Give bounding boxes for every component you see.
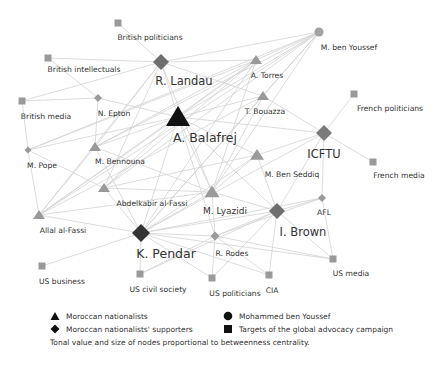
legend-note: Tonal value and size of nodes proportion… [50,336,310,348]
node-icftu-diamond-icon [316,125,332,141]
node-afl-diamond-icon [318,194,326,202]
circle-icon [223,311,233,321]
edge-r_landau-a_torres [161,60,256,62]
node-label-cia: CIA [266,286,280,295]
node-label-icftu: ICFTU [307,147,340,161]
node-cia-square-icon [266,272,273,279]
node-label-british-politicians: British politicians [117,33,182,42]
triangle-icon [50,311,60,321]
node-label-abdelkabir-al-fassi: Abdelkabir al-Fassi [117,199,188,208]
node-british-media-square-icon [19,98,26,105]
edge-k_pendar-us_business [42,233,141,266]
node-label-n-epton: N. Epton [98,109,131,118]
node-label-m-ben-youssef: M. ben Youssef [321,43,378,52]
node-m-bennouna-triangle-icon [89,142,101,151]
node-label-us-media: US media [333,269,369,278]
edge-m_ben_seddiq-k_pendar [141,155,257,233]
legend-item-mohammed-ben-youssef: Mohammed ben Youssef [223,310,330,322]
node-label-allal-al-fassi: Allal al-Fassi [40,226,86,235]
node-label-r-landau: R. Landau [155,74,212,88]
legend-item-supporters: Moroccan nationalists' supporters [50,323,193,335]
node-label-us-business: US business [39,277,85,286]
edge-british_media-n_epton [22,98,98,101]
node-us-civil-society-square-icon [137,271,144,278]
node-label-i-brown: I. Brown [280,225,327,239]
node-label-french-media: French media [373,171,424,180]
node-french-media-square-icon [370,159,377,166]
node-m-ben-seddiq-triangle-icon [250,149,264,160]
node-n-epton-diamond-icon [94,94,102,102]
node-label-us-politicians: US politicians [209,289,260,298]
edge-i_brown-cia [269,211,277,275]
node-m-ben-youssef-circle-icon [315,28,324,37]
node-m-pope-diamond-icon [25,147,32,154]
node-label-british-intellectuals: British intellectuals [48,65,121,74]
edge-i_brown-us_politicians [212,211,277,278]
legend-label: Mohammed ben Youssef [239,312,330,321]
square-icon [223,324,233,334]
node-label-french-politicians: French politicians [357,104,423,113]
node-label-afl: AFL [317,208,332,217]
edge-m_ben_youssef-t_bouazza [263,32,319,96]
edge-british_media-m_pope [22,101,28,150]
node-label-r-rodes: R. Rodes [216,249,249,258]
legend-label: Moroccan nationalists' supporters [66,325,193,334]
node-t-bouazza-triangle-icon [257,91,269,100]
node-british-politicians-square-icon [115,20,122,27]
node-label-british-media: British media [21,112,71,121]
edge-abdelkabir_al_fassi-k_pendar [104,188,141,233]
edge-icftu-afl [322,133,324,198]
node-label-k-pendar: K. Pendar [136,246,196,261]
legend-item-targets: Targets of the global advocacy campaign [223,323,393,335]
edge-british_politicians-r_landau [118,23,161,62]
edge-m_ben_seddiq-i_brown [257,155,277,211]
node-label-us-civil-society: US civil society [129,285,187,294]
edge-french_politicians-icftu [324,94,354,133]
edge-r_landau-m_ben_youssef [161,32,319,62]
diamond-icon [50,324,60,334]
node-label-a-balafrej: A. Balafrej [173,130,237,145]
node-us-politicians-square-icon [209,275,216,282]
node-label-m-pope: M. Pope [27,161,57,170]
node-british-intellectuals-square-icon [45,55,52,62]
node-label-m-bennouna: M. Bennouna [95,157,145,166]
legend-label: Targets of the global advocacy campaign [239,325,393,334]
node-r-rodes-diamond-icon [211,232,220,241]
node-label-t-bouazza: T. Bouazza [244,107,286,116]
node-us-business-square-icon [39,263,46,270]
node-k-pendar-diamond-icon [132,224,150,242]
node-label-m-lyazidi: M. Lyazidi [203,206,247,216]
edge-m_pope-allal_al_fassi [28,150,39,215]
legend-item-moroccan-nationalists: Moroccan nationalists [50,310,148,322]
network-diagram: British politiciansBritish intellectuals… [0,0,444,300]
node-label-m-ben-seddiq: M. Ben Seddiq [265,170,320,179]
edge-british_intellectuals-r_landau [48,58,161,62]
node-label-a-torres: A. Torres [251,71,283,80]
node-us-media-square-icon [330,256,337,263]
legend-label: Moroccan nationalists [66,312,148,321]
node-french-politicians-square-icon [351,91,358,98]
edge-abdelkabir_al_fassi-m_lyazidi [104,188,212,192]
